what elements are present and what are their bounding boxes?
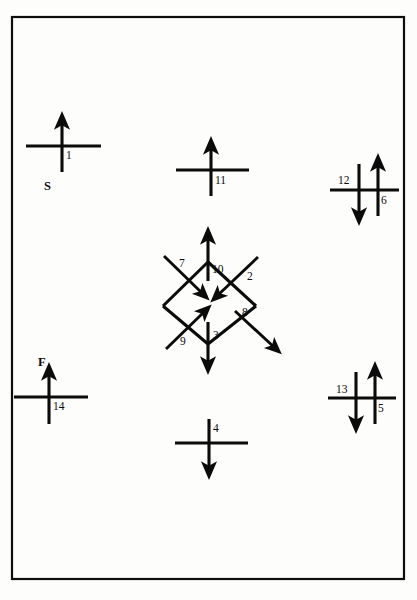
diamond-arrow-9-number: 9	[180, 335, 186, 347]
cross-11-number: 11	[215, 174, 226, 186]
diamond-arrow-10-number: 10	[212, 263, 224, 275]
cross-13-number: 13	[336, 383, 348, 395]
cross-14-number: 14	[53, 400, 65, 412]
figure-frame	[12, 17, 404, 579]
cross-1-number: 1	[66, 149, 72, 161]
cross-12-number: 12	[338, 174, 350, 186]
arrow-crossing-diagram: 1 S 11 12 6 F 14 4	[0, 0, 417, 600]
diagram-page: 1 S 11 12 6 F 14 4	[0, 0, 417, 600]
diamond-arrow-7-number: 7	[179, 257, 185, 269]
cross-6-number: 6	[381, 194, 387, 206]
cross-5-number: 5	[378, 402, 384, 414]
cross-4-number: 4	[213, 422, 219, 434]
diamond-arrow-3-number: 3	[213, 329, 219, 341]
diamond-arrow-2-number: 2	[247, 270, 253, 282]
node-label-f: F	[38, 355, 46, 369]
node-label-s: S	[44, 179, 51, 193]
diamond-arrow-8-number: 8	[242, 306, 248, 318]
